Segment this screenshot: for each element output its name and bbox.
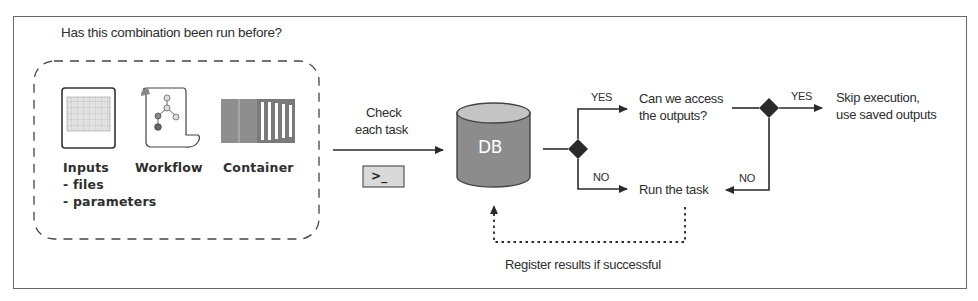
terminal-glyph: >_ (371, 168, 387, 185)
access-question-line2: the outputs? (639, 107, 707, 124)
register-results-dotted-arrow (494, 206, 685, 242)
decision1-yes-arrow (578, 109, 627, 139)
skip-result-line1: Skip execution, (836, 89, 920, 106)
decision2-no-label: NO (739, 170, 755, 187)
container-label: Container (223, 159, 294, 176)
container-icon (221, 99, 295, 143)
access-question-line1: Can we access (639, 90, 723, 107)
decision1-yes-label: YES (591, 89, 612, 106)
decision1-diamond (568, 139, 588, 159)
spreadsheet-icon (62, 88, 115, 148)
workflow-scroll-icon (141, 88, 200, 147)
inputs-label: Inputs (63, 159, 109, 176)
inputs-subline-parameters: - parameters (63, 193, 156, 210)
inputs-subline-files: - files (63, 176, 104, 193)
question-title: Has this combination been run before? (61, 24, 282, 41)
workflow-label: Workflow (135, 159, 203, 176)
decision1-no-label: NO (593, 169, 609, 186)
run-task-label: Run the task (639, 181, 708, 198)
db-label: DB (478, 137, 502, 157)
check-label-line1: Check (366, 104, 401, 121)
register-results-note: Register results if successful (505, 256, 661, 273)
skip-result-line2: use saved outputs (836, 106, 936, 123)
decision2-diamond (759, 98, 779, 118)
check-label-line2: each task (355, 121, 408, 138)
decision2-yes-label: YES (791, 88, 812, 105)
